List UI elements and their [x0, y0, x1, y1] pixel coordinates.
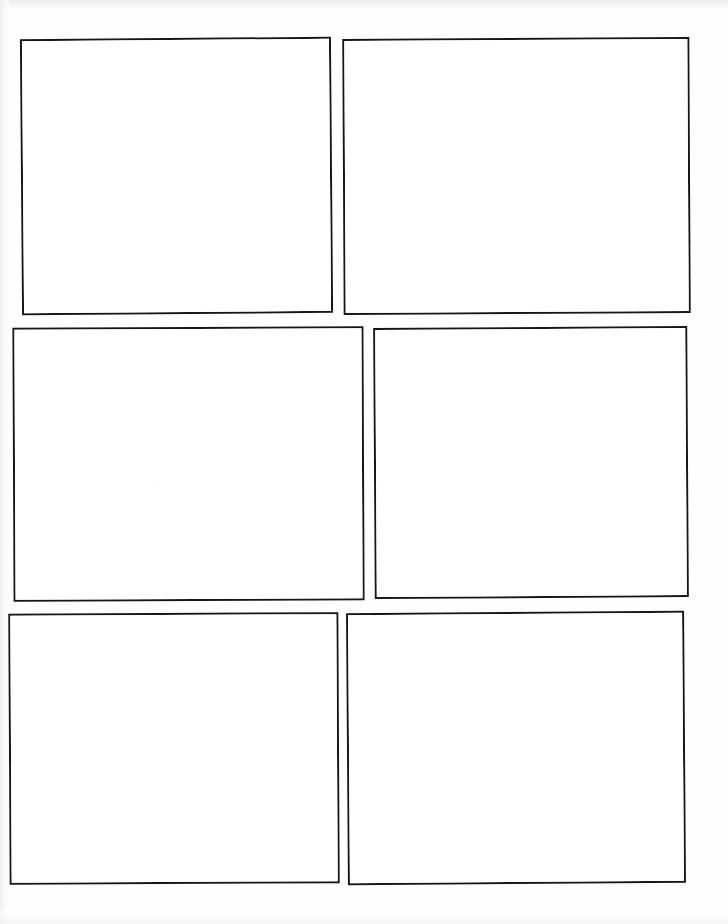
- comic-panel[interactable]: [342, 37, 690, 315]
- comic-panel[interactable]: [8, 612, 339, 885]
- comic-panel-content-area[interactable]: [348, 613, 684, 883]
- scan-edge-shadow-bottom: [0, 910, 728, 924]
- comic-panel-content-area[interactable]: [22, 39, 331, 313]
- comic-panel[interactable]: [20, 37, 333, 315]
- comic-page-sheet: [0, 0, 728, 924]
- comic-panel[interactable]: [12, 326, 364, 602]
- scan-edge-shadow-left: [0, 0, 9, 924]
- comic-panel[interactable]: [346, 611, 686, 885]
- comic-panel-content-area[interactable]: [375, 328, 687, 597]
- comic-panel-content-area[interactable]: [10, 614, 337, 883]
- comic-panel[interactable]: [373, 326, 689, 599]
- comic-panel-content-area[interactable]: [344, 39, 688, 313]
- comic-panel-content-area[interactable]: [14, 328, 362, 600]
- scan-edge-shadow-top: [0, 0, 728, 10]
